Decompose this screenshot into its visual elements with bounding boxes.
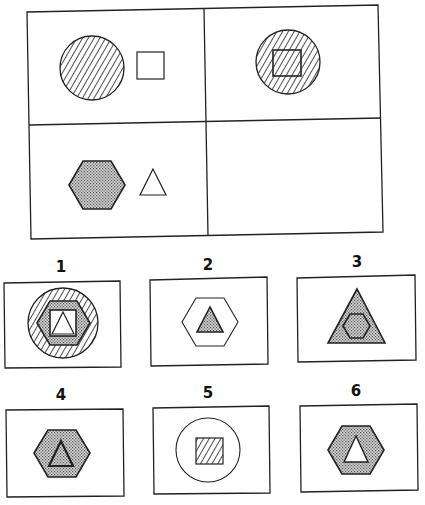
option-5-label: 5 bbox=[193, 384, 223, 402]
option-3-label: 3 bbox=[342, 253, 372, 271]
question-grid bbox=[27, 5, 383, 239]
hatched-circle-icon bbox=[60, 36, 124, 100]
empty-square-icon bbox=[137, 52, 164, 79]
hatched-square-icon bbox=[273, 50, 301, 76]
option-4[interactable] bbox=[6, 409, 124, 497]
option-1-label: 1 bbox=[46, 258, 76, 276]
option-6-label: 6 bbox=[341, 382, 371, 400]
cell-top-right bbox=[256, 30, 320, 94]
option-1[interactable] bbox=[4, 281, 121, 368]
option-6[interactable] bbox=[300, 404, 418, 492]
dotted-hexagon-icon bbox=[343, 314, 370, 338]
option-5[interactable] bbox=[153, 406, 270, 494]
option-2-label: 2 bbox=[193, 256, 223, 274]
option-4-label: 4 bbox=[46, 386, 76, 404]
hatched-square-icon bbox=[196, 438, 223, 464]
option-3[interactable] bbox=[297, 275, 416, 362]
option-2[interactable] bbox=[150, 277, 268, 366]
